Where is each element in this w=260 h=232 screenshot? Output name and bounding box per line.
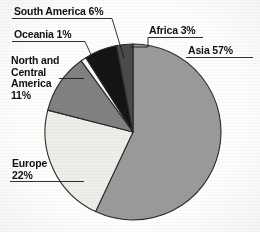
pie-label-africa: Africa 3% [149,25,196,37]
pie-label-asia: Asia 57% [188,45,233,57]
pie-label-north-and-central-america-line1: North and [11,55,59,67]
pie-chart-figure: South America 6% Oceania 1% North and Ce… [0,0,260,232]
pie-label-north-and-central-america-line4: 11% [11,90,31,102]
pie-label-oceania: Oceania 1% [14,29,71,41]
pie-label-south-america: South America 6% [14,6,103,18]
pie-label-europe-line2: 22% [12,170,33,182]
pie-label-europe-line1: Europe [12,158,47,170]
